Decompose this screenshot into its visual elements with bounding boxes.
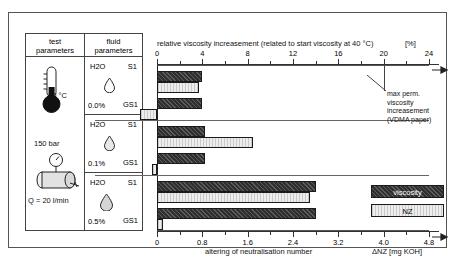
temperature-label: 60 °C (48, 91, 67, 100)
top-tick-major (202, 59, 203, 64)
bottom-tick-major (384, 232, 385, 237)
test-parameters-cell: 60 °C 150 bar Q = 20 l/min (25, 56, 85, 231)
top-tick-label: 20 (371, 49, 397, 58)
fluid-group-2: H2O S1 0.5% GS1 (84, 172, 143, 231)
vdma-annotation-line2: viscosity (387, 99, 431, 108)
top-tick-major (338, 59, 339, 64)
fluid-group-1: H2O S1 0.1% GS1 (84, 114, 143, 173)
bottom-tick-major (248, 232, 249, 237)
bottom-tick-label: 2.4 (280, 238, 306, 247)
top-tick-label: 24 (416, 49, 442, 58)
bottom-tick-major (293, 232, 294, 237)
fluid-parameters-header: fluid parameters (84, 33, 143, 57)
vdma-annotation-line4: (VDMA paper) (387, 116, 431, 125)
bar-nz (157, 219, 163, 230)
bottom-tick-label: 3.2 (325, 238, 351, 247)
bar-viscosity (157, 126, 205, 137)
top-tick-major (384, 59, 385, 64)
top-tick-minor (270, 61, 271, 64)
fluid-name-2: H2O (90, 178, 105, 187)
top-tick-label: 8 (235, 49, 261, 58)
top-tick-minor (180, 61, 181, 64)
row-label-s1-2: S1 (128, 178, 137, 187)
bottom-tick-major (157, 232, 158, 237)
water-droplet-icon (103, 135, 116, 151)
water-content-0: 0.0% (88, 101, 105, 110)
bar-nz (157, 137, 253, 148)
bottom-tick-label: 1.6 (235, 238, 261, 247)
bar-viscosity (157, 98, 202, 109)
bar-nz (157, 82, 199, 93)
bottom-tick-minor (180, 232, 181, 235)
top-tick-minor (225, 61, 226, 64)
bottom-tick-major (338, 232, 339, 237)
bottom-tick-major (202, 232, 203, 237)
bar-nz (157, 192, 310, 203)
top-tick-minor (406, 61, 407, 64)
top-tick-minor (361, 61, 362, 64)
bottom-tick-minor (316, 232, 317, 235)
top-tick-label: 12 (280, 49, 306, 58)
test-parameters-header-line2: parameters (26, 46, 84, 55)
legend-swatch-nz: NZ (371, 204, 444, 217)
fluid-group-0: H2O S1 0.0% GS1 (84, 56, 143, 115)
top-tick-major (429, 59, 430, 64)
top-tick-label: 4 (189, 49, 215, 58)
fluid-parameters-header-line2: parameters (85, 46, 142, 55)
vdma-annotation: max perm. viscosity increasement (VDMA p… (387, 90, 431, 124)
chart-frame: test parameters fluid parameters 60 °C 1… (8, 12, 447, 248)
top-axis-title: relative viscosity increasement (related… (157, 39, 373, 48)
bar-viscosity (157, 181, 316, 192)
top-tick-label: 0 (144, 49, 170, 58)
fluid-name-1: H2O (90, 120, 105, 129)
bottom-tick-minor (406, 232, 407, 235)
legend-label-viscosity: viscosity (372, 186, 443, 199)
vdma-annotation-line1: max perm. (387, 90, 431, 99)
bottom-axis-arrow (432, 227, 448, 245)
fluid-name-0: H2O (90, 62, 105, 71)
top-tick-major (293, 59, 294, 64)
top-tick-major (157, 59, 158, 64)
bottom-axis-title: altering of neutralisation number (205, 247, 312, 256)
water-content-1: 0.1% (88, 159, 105, 168)
water-droplet-icon (99, 193, 114, 211)
bar-viscosity (157, 208, 316, 219)
pressure-label: 150 bar (34, 139, 59, 148)
bar-nz (140, 109, 157, 120)
hydraulic-cylinder-icon (32, 153, 82, 193)
group-separator-1 (95, 120, 429, 121)
bottom-axis-unit: ΔNZ [mg KOH] (372, 247, 422, 256)
bar-viscosity (157, 153, 205, 164)
bottom-tick-minor (270, 232, 271, 235)
row-label-gs1-1: GS1 (123, 158, 138, 167)
bar-viscosity (157, 71, 202, 82)
bottom-tick-label: 0.8 (189, 238, 215, 247)
row-label-gs1-2: GS1 (123, 216, 138, 225)
top-tick-major (248, 59, 249, 64)
parameters-table: test parameters fluid parameters 60 °C 1… (25, 33, 143, 231)
top-axis-arrow (432, 60, 448, 78)
legend-label-nz: NZ (372, 205, 443, 218)
bar-nz (152, 164, 157, 175)
bottom-axis-line (157, 231, 439, 232)
test-parameters-header-line1: test (26, 37, 84, 46)
bottom-tick-minor (225, 232, 226, 235)
water-droplet-icon (103, 77, 116, 93)
water-content-2: 0.5% (88, 217, 105, 226)
fluid-parameters-header-line1: fluid (85, 37, 142, 46)
bottom-tick-major (429, 232, 430, 237)
legend: viscosity NZ (371, 185, 444, 225)
flow-rate-label: Q = 20 l/min (28, 196, 69, 205)
bottom-tick-label: 0 (144, 238, 170, 247)
row-label-s1-1: S1 (128, 120, 137, 129)
group-separator-2 (95, 175, 429, 176)
bottom-tick-label: 4.0 (371, 238, 397, 247)
top-axis-unit: [%] (405, 39, 416, 48)
test-parameters-header: test parameters (25, 33, 85, 57)
row-label-gs1-0: GS1 (123, 100, 138, 109)
row-label-s1-0: S1 (128, 62, 137, 71)
vdma-annotation-line3: increasement (387, 107, 431, 116)
top-tick-minor (316, 61, 317, 64)
legend-swatch-viscosity: viscosity (371, 185, 444, 198)
bottom-tick-minor (361, 232, 362, 235)
